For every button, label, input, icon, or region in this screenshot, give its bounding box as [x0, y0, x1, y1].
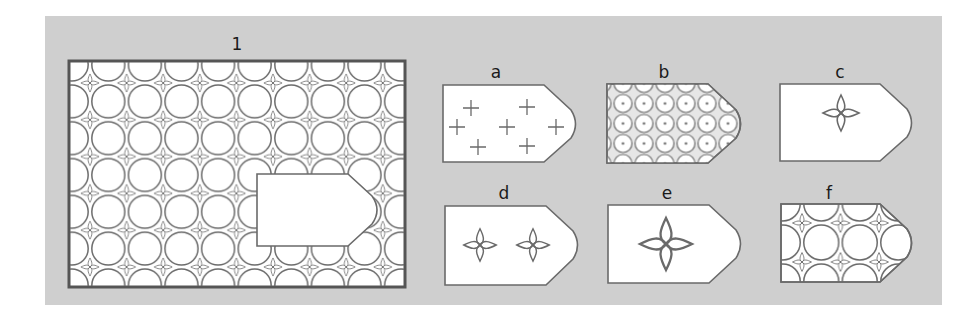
option-d-label: d	[499, 183, 510, 203]
main-figure-label: 1	[232, 34, 243, 54]
option-e-label: e	[662, 183, 672, 203]
missing-piece-slot	[257, 174, 377, 246]
option-b-label: b	[659, 62, 670, 82]
option-a-label: a	[491, 62, 501, 82]
main-figure: 1	[69, 34, 405, 287]
option-c-label: c	[835, 62, 844, 82]
puzzle-figure: 1 a b c d	[0, 0, 978, 327]
option-f-label: f	[826, 183, 833, 203]
